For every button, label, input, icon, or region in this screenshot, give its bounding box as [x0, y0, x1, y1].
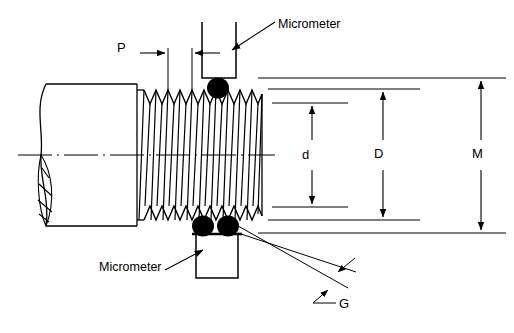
callout-micrometer-upper: Micrometer	[278, 18, 341, 31]
leader-micrometer-lower	[165, 250, 203, 270]
thread-measurement-diagram	[0, 0, 514, 333]
label-major-diameter: D	[374, 147, 383, 160]
label-measurement-over-wires: M	[472, 147, 483, 160]
callout-micrometer-lower: Micrometer	[99, 261, 162, 274]
label-minor-diameter: d	[302, 148, 309, 161]
micrometer-anvil-lower	[192, 234, 242, 278]
label-wire-diameter: G	[339, 297, 349, 310]
label-pitch: P	[117, 41, 126, 54]
micrometer-anvil-upper	[202, 22, 236, 78]
diagram-canvas: P d D M G Micrometer Micrometer	[0, 0, 514, 333]
dimension-wire-diameter	[231, 222, 356, 303]
wire-top	[207, 78, 229, 99]
leader-micrometer-upper	[232, 22, 275, 50]
